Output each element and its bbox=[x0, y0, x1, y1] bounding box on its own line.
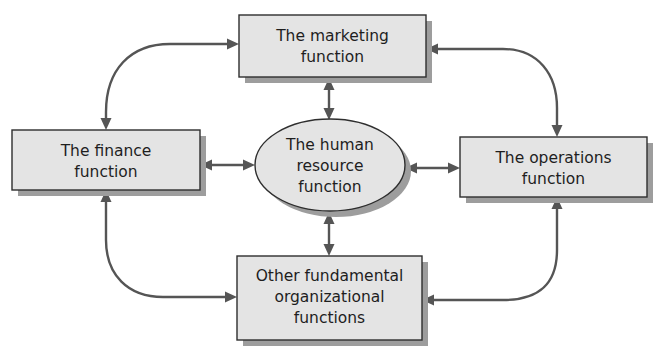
arrowhead-icon bbox=[225, 292, 237, 303]
arrowhead-icon bbox=[324, 244, 335, 256]
svg-text:The operations: The operations bbox=[494, 149, 611, 167]
connector-marketing-operations bbox=[426, 44, 563, 138]
node-marketing-line-1: The marketing bbox=[275, 27, 389, 45]
connector-hr-other bbox=[324, 212, 335, 256]
node-other-line-2: organizational bbox=[274, 288, 384, 306]
svg-text:function: function bbox=[522, 170, 585, 188]
node-finance-line-1: The finance bbox=[60, 142, 152, 160]
connector-operations-other bbox=[422, 197, 563, 306]
node-other-line-3: functions bbox=[294, 309, 365, 327]
svg-text:The finance: The finance bbox=[60, 142, 152, 160]
arrowhead-icon bbox=[101, 118, 112, 130]
svg-text:organizational: organizational bbox=[274, 288, 384, 306]
svg-text:function: function bbox=[74, 163, 137, 181]
node-marketing-line-2: function bbox=[301, 48, 364, 66]
connector-hr-operations bbox=[405, 163, 460, 174]
node-hr-line-1: The human bbox=[285, 136, 374, 154]
node-other: Other fundamental organizational functio… bbox=[237, 256, 428, 346]
arrowhead-icon bbox=[243, 160, 255, 171]
arrowhead-icon bbox=[448, 163, 460, 174]
svg-text:The human: The human bbox=[285, 136, 374, 154]
arrowhead-icon bbox=[552, 125, 563, 137]
node-finance: The finance function bbox=[12, 130, 206, 196]
connector-hr-marketing bbox=[324, 78, 335, 120]
node-hr-line-3: function bbox=[298, 178, 361, 196]
connector-finance-marketing bbox=[101, 39, 240, 131]
svg-text:The marketing: The marketing bbox=[275, 27, 389, 45]
svg-text:function: function bbox=[298, 178, 361, 196]
arrowhead-icon bbox=[227, 39, 239, 50]
svg-text:function: function bbox=[301, 48, 364, 66]
node-hr-line-2: resource bbox=[296, 157, 363, 175]
connector-hr-finance bbox=[200, 160, 255, 171]
node-other-line-1: Other fundamental bbox=[256, 267, 404, 285]
connector-other-finance bbox=[101, 190, 238, 303]
node-human-resource: The human resource function bbox=[255, 119, 411, 217]
node-operations-line-1: The operations bbox=[494, 149, 611, 167]
svg-text:resource: resource bbox=[296, 157, 363, 175]
node-marketing: The marketing function bbox=[239, 15, 432, 83]
svg-text:Other fundamental: Other fundamental bbox=[256, 267, 404, 285]
node-operations: The operations function bbox=[460, 137, 653, 203]
node-operations-line-2: function bbox=[522, 170, 585, 188]
arrowhead-icon bbox=[324, 108, 335, 120]
svg-text:functions: functions bbox=[294, 309, 365, 327]
hr-relationship-diagram: The marketing function The finance funct… bbox=[0, 0, 662, 357]
node-finance-line-2: function bbox=[74, 163, 137, 181]
